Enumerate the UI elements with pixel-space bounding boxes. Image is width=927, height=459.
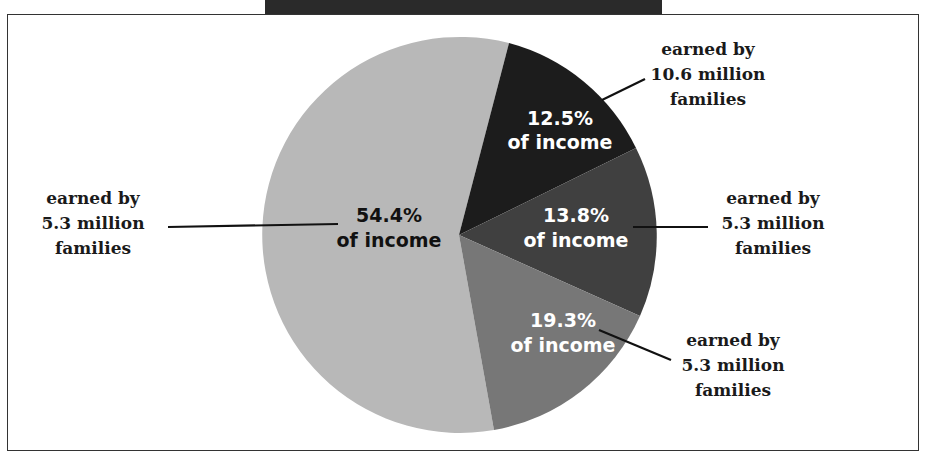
leader-line <box>602 79 645 100</box>
slice-label-sub: of income <box>524 229 629 251</box>
slice-label-pct: 12.5% <box>527 107 593 129</box>
slice-label-pct: 54.4% <box>356 204 422 226</box>
pie-chart: 12.5% of income 13.8% of income 19.3% of… <box>0 0 927 459</box>
slice-label-pct: 19.3% <box>530 309 596 331</box>
callout-line: 10.6 million <box>651 64 766 84</box>
callout-line: 5.3 million <box>681 355 784 375</box>
callout-line: earned by <box>726 188 821 208</box>
slice-label-sub: of income <box>511 334 616 356</box>
callout-line: families <box>735 238 811 258</box>
slice-label-sub: of income <box>508 131 613 153</box>
slice-label-pct: 13.8% <box>543 204 609 226</box>
callout-line: 5.3 million <box>721 213 824 233</box>
callout-line: 5.3 million <box>41 213 144 233</box>
callout-line: families <box>695 380 771 400</box>
callout-line: families <box>670 89 746 109</box>
callout-line: earned by <box>661 39 756 59</box>
slice-label-sub: of income <box>337 229 442 251</box>
callout-line: earned by <box>686 330 781 350</box>
callout-line: families <box>55 238 131 258</box>
callout-line: earned by <box>46 188 141 208</box>
